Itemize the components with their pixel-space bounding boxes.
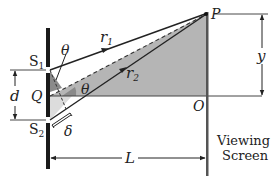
barrier-bottom bbox=[46, 123, 50, 169]
label-s1: S1 bbox=[29, 53, 44, 71]
label-d: d bbox=[10, 87, 20, 105]
label-L: L bbox=[124, 149, 135, 167]
label-theta-mid: θ bbox=[81, 81, 90, 97]
label-screen-line1: Viewing bbox=[216, 133, 270, 148]
label-screen-line2: Screen bbox=[222, 148, 269, 163]
label-s2: S2 bbox=[29, 121, 44, 139]
label-delta: δ bbox=[64, 123, 72, 139]
label-p: P bbox=[210, 6, 221, 22]
viewing-screen bbox=[206, 12, 209, 176]
label-r1: r1 bbox=[100, 28, 113, 47]
r1-arrowhead bbox=[101, 48, 109, 53]
barrier-middle bbox=[46, 73, 50, 117]
double-slit-diagram: S1 S2 Q O P r1 r2 θ θ d δ y L Viewing Sc… bbox=[0, 0, 279, 181]
barrier-top bbox=[46, 28, 50, 67]
label-y: y bbox=[256, 47, 266, 65]
point-p bbox=[204, 12, 208, 16]
label-q: Q bbox=[31, 88, 43, 104]
label-o: O bbox=[193, 98, 205, 114]
dark-triangle-s1 bbox=[50, 71, 62, 92]
label-theta-top: θ bbox=[61, 42, 70, 58]
